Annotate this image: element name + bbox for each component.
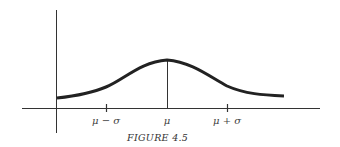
- figure-caption: FIGURE 4.5: [126, 132, 188, 143]
- label-mu-plus-sigma: μ + σ: [213, 115, 242, 126]
- label-mu: μ: [164, 115, 171, 126]
- normal-curve: [57, 60, 284, 98]
- label-mu-minus-sigma: μ − σ: [92, 115, 121, 126]
- normal-curve-figure: μ − σ μ μ + σ FIGURE 4.5: [0, 0, 340, 147]
